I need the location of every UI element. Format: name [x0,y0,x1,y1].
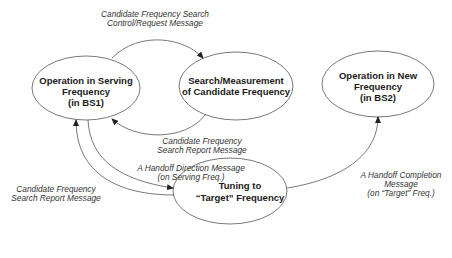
label-handoff-completion: A Handoff Completion Message (on “Target… [360,170,442,198]
svg-text:Search Report Message: Search Report Message [11,193,101,203]
state-serving-line2: Frequency [62,86,111,97]
state-search-line1: Search/Measurement [188,75,284,86]
label-search-report-upper: Candidate Frequency Search Report Messag… [157,136,247,155]
label-search-request: Candidate Frequency Search Control/Reque… [101,9,209,28]
transition-serving-to-search [112,40,203,58]
state-new-line1: Operation in New [339,70,418,81]
svg-text:(on Serving Freq.): (on Serving Freq.) [158,172,225,182]
label-search-report-lower: Candidate Frequency Search Report Messag… [11,184,101,203]
svg-text:(on “Target” Freq.): (on “Target” Freq.) [367,188,435,198]
state-tuning-line1: Tuning to [219,180,262,191]
state-search: Search/Measurement of Candidate Frequenc… [179,52,293,120]
state-serving-line3: (in BS1) [68,97,104,108]
state-serving-line1: Operation in Serving [39,75,133,86]
state-search-line2: of Candidate Frequency [182,86,291,97]
state-tuning-line2: “Target” Frequency [196,192,285,203]
state-diagram: Operation in Serving Frequency (in BS1) … [0,0,452,258]
state-serving: Operation in Serving Frequency (in BS1) [32,56,140,120]
svg-text:Search Report Message: Search Report Message [157,145,247,155]
state-new: Operation in New Frequency (in BS2) [322,51,434,117]
transition-search-to-serving [112,114,206,135]
state-new-line2: Frequency [354,81,403,92]
svg-text:Control/Request Message: Control/Request Message [107,18,203,28]
state-new-line3: (in BS2) [360,92,396,103]
